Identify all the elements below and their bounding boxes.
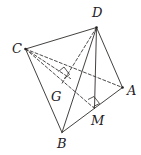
edge-CD xyxy=(26,28,97,50)
right-angle-marks-group xyxy=(59,67,100,107)
vertex-label-M: M xyxy=(91,114,104,127)
vertex-dot-A xyxy=(121,86,124,89)
right-angle-at-G xyxy=(59,67,70,79)
geometry-canvas xyxy=(0,0,141,155)
vertex-label-G: G xyxy=(51,90,61,103)
right-angle-at-M xyxy=(88,97,100,107)
vertex-label-B: B xyxy=(57,137,67,150)
vertex-dot-D xyxy=(95,26,98,29)
edge-DM xyxy=(95,28,97,109)
vertex-label-D: D xyxy=(92,6,102,19)
vertex-dot-C xyxy=(24,48,27,51)
visible-edges-group xyxy=(26,28,123,133)
vertex-label-C: C xyxy=(12,42,22,55)
vertex-label-A: A xyxy=(127,84,136,97)
tetrahedron-figure: D C A G M B xyxy=(0,0,141,155)
